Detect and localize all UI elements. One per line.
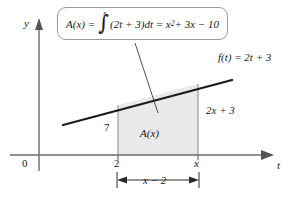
y-axis-label: y — [24, 18, 29, 29]
tick-label-left-bound: 2 — [114, 158, 120, 169]
formula-lhs: A(x) = — [66, 18, 95, 30]
integral-sign: ∫x2 — [98, 16, 109, 32]
integral-upper-limit: x — [103, 11, 106, 16]
dimension-arrowhead-right — [189, 177, 199, 184]
dimension-arrowhead-left — [117, 177, 127, 184]
function-label: f(t) = 2t + 3 — [218, 52, 271, 63]
formula-integrand: (2t + 3)dt = x — [110, 18, 171, 30]
tick-label-right-bound: x — [194, 158, 199, 169]
shaded-area-region — [118, 84, 198, 155]
formula-tail: + 3x − 10 — [175, 18, 219, 30]
formula-callout-box: A(x) = ∫x2 (2t + 3)dt = x2 + 3x − 10 — [57, 7, 228, 40]
area-label: A(x) — [140, 128, 159, 139]
t-axis-arrowhead — [261, 150, 274, 160]
integral-area-diagram: A(x) = ∫x2 (2t + 3)dt = x2 + 3x − 10 y t… — [0, 0, 298, 198]
origin-label: 0 — [22, 158, 28, 169]
right-ordinate-label: 2x + 3 — [206, 105, 235, 116]
formula-expression: A(x) = ∫x2 (2t + 3)dt = x2 + 3x − 10 — [58, 8, 227, 39]
integral-lower-limit: 2 — [99, 30, 103, 35]
y-axis-arrowhead — [35, 18, 43, 30]
dimension-label: x − 2 — [143, 175, 166, 186]
t-axis-label: t — [277, 160, 280, 171]
left-ordinate-label: 7 — [104, 122, 110, 133]
